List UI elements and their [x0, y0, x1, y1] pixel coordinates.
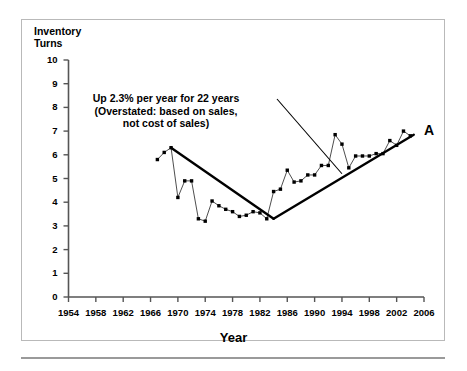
data-point-marker: [292, 180, 295, 183]
data-point-marker: [238, 215, 241, 218]
data-point-marker: [388, 139, 391, 142]
data-series-a: [156, 129, 412, 222]
y-tick-label: 6: [36, 149, 58, 160]
data-point-marker: [258, 211, 261, 214]
y-tick-label: 2: [36, 244, 58, 255]
data-point-marker: [368, 154, 371, 157]
y-tick-label: 7: [36, 125, 58, 136]
data-point-marker: [251, 210, 254, 213]
data-point-marker: [313, 173, 316, 176]
data-point-marker: [402, 129, 405, 132]
data-point-marker: [374, 152, 377, 155]
y-tick-label: 10: [36, 54, 58, 65]
data-point-marker: [183, 179, 186, 182]
declining-trend-line: [171, 148, 274, 219]
y-tick-label: 3: [36, 220, 58, 231]
trend-annotations: [171, 99, 414, 219]
data-point-marker: [245, 214, 248, 217]
y-tick-label: 1: [36, 267, 58, 278]
y-tick-label: 8: [36, 101, 58, 112]
chart-page: Inventory Turns Year Up 2.3% per year fo…: [0, 0, 467, 371]
y-tick-label: 4: [36, 196, 58, 207]
data-point-marker: [197, 217, 200, 220]
data-point-marker: [156, 158, 159, 161]
x-axis: [69, 297, 425, 302]
data-point-marker: [210, 199, 213, 202]
x-tick-label: 2006: [404, 307, 444, 318]
y-axis: [64, 60, 69, 297]
rising-trend-line: [274, 135, 414, 219]
series-markers: [156, 129, 412, 222]
data-point-marker: [224, 208, 227, 211]
data-point-marker: [299, 179, 302, 182]
data-point-marker: [272, 190, 275, 193]
data-point-marker: [320, 164, 323, 167]
callout-leader-line: [277, 99, 342, 174]
data-point-marker: [286, 169, 289, 172]
data-point-marker: [279, 187, 282, 190]
data-point-marker: [231, 210, 234, 213]
data-point-marker: [354, 154, 357, 157]
y-tick-label: 5: [36, 173, 58, 184]
data-point-marker: [190, 179, 193, 182]
data-point-marker: [163, 151, 166, 154]
data-point-marker: [217, 204, 220, 207]
series-polyline: [157, 131, 410, 221]
data-point-marker: [361, 154, 364, 157]
data-point-marker: [327, 164, 330, 167]
y-tick-label: 9: [36, 78, 58, 89]
data-point-marker: [347, 166, 350, 169]
data-point-marker: [176, 196, 179, 199]
data-point-marker: [265, 217, 268, 220]
data-point-marker: [333, 133, 336, 136]
data-point-marker: [306, 173, 309, 176]
data-point-marker: [204, 219, 207, 222]
data-point-marker: [340, 142, 343, 145]
y-tick-label: 0: [36, 291, 58, 302]
